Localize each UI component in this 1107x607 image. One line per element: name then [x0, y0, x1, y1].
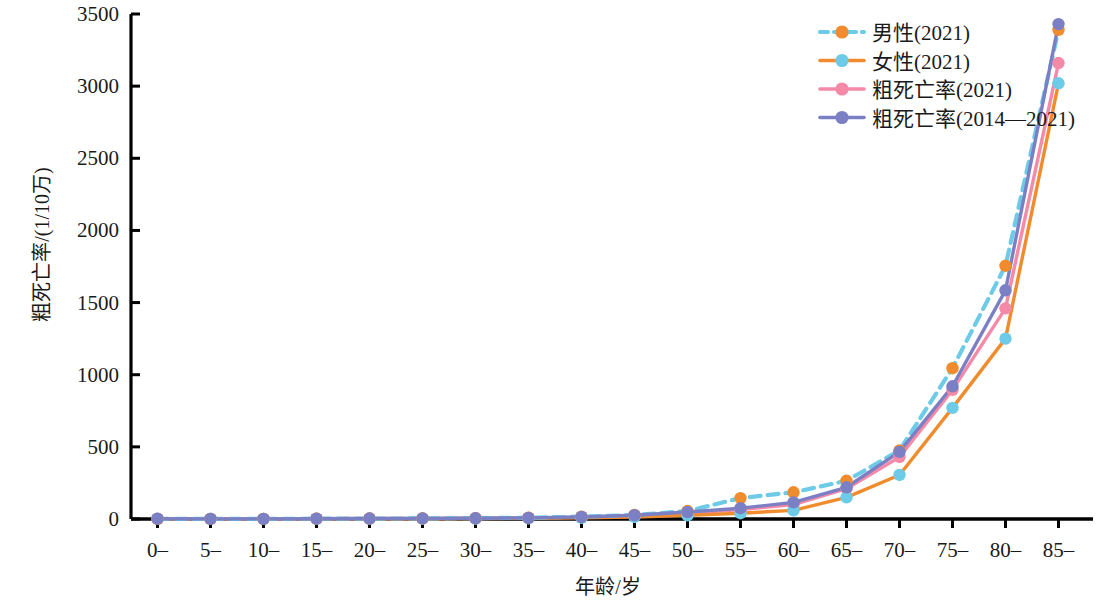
x-tick-label: 10– [248, 538, 280, 562]
x-tick-label: 5– [200, 538, 222, 562]
x-tick-label: 30– [460, 538, 492, 562]
data-point [681, 506, 693, 518]
y-tick-label: 1500 [77, 291, 119, 315]
x-tick-label: 80– [990, 538, 1022, 562]
data-point [1052, 57, 1064, 69]
data-point [204, 513, 216, 525]
chart-root: 粗死亡率/(1/10万) 050010001500200025003000350… [0, 0, 1107, 607]
x-tick-label: 55– [725, 538, 757, 562]
legend-marker-2 [835, 82, 848, 95]
legend-marker-1 [835, 54, 848, 67]
data-point [628, 509, 640, 521]
data-point [999, 302, 1011, 314]
x-tick-label: 35– [513, 538, 545, 562]
y-tick-label: 2500 [77, 146, 119, 170]
x-tick-label: 20– [354, 538, 386, 562]
legend-label-0: 男性(2021) [872, 21, 970, 45]
y-tick-label: 2000 [77, 218, 119, 242]
x-tick-label: 25– [407, 538, 439, 562]
x-tick-label: 45– [619, 538, 651, 562]
y-tick-label: 3000 [77, 74, 119, 98]
x-tick-label: 75– [937, 538, 969, 562]
data-point [469, 512, 481, 524]
data-point [1052, 18, 1064, 30]
line-chart: 05001000150020002500300035000–5–10–15–20… [0, 0, 1107, 607]
y-tick-label: 0 [109, 507, 120, 531]
data-point [787, 496, 799, 508]
x-tick-label: 40– [566, 538, 598, 562]
legend-label-1: 女性(2021) [872, 50, 970, 74]
x-tick-label: 0– [147, 538, 169, 562]
legend-marker-3 [835, 111, 848, 124]
data-point [999, 332, 1011, 344]
data-point [734, 502, 746, 514]
y-tick-label: 500 [88, 435, 120, 459]
data-point [1052, 77, 1064, 89]
legend-label-3: 粗死亡率(2014—2021) [872, 107, 1075, 131]
data-point [416, 512, 428, 524]
data-point [575, 511, 587, 523]
data-point [999, 284, 1011, 296]
x-tick-label: 70– [884, 538, 916, 562]
x-tick-label: 85– [1043, 538, 1075, 562]
data-point [257, 513, 269, 525]
data-point [946, 402, 958, 414]
series-line-2 [158, 63, 1059, 519]
data-point [151, 513, 163, 525]
legend: 男性(2021)女性(2021)粗死亡率(2021)粗死亡率(2014—2021… [820, 21, 1075, 131]
series-line-1 [158, 83, 1059, 519]
x-tick-label: 50– [672, 538, 704, 562]
y-tick-label: 1000 [77, 363, 119, 387]
data-point [522, 512, 534, 524]
x-axis-title: 年龄/岁 [575, 576, 641, 598]
data-point [310, 513, 322, 525]
y-tick-label: 3500 [77, 2, 119, 26]
data-point [893, 469, 905, 481]
legend-label-2: 粗死亡率(2021) [872, 78, 1012, 102]
x-tick-label: 65– [831, 538, 863, 562]
data-point [999, 260, 1011, 272]
legend-marker-0 [835, 25, 848, 38]
data-point [946, 362, 958, 374]
data-point [893, 446, 905, 458]
x-tick-label: 15– [301, 538, 333, 562]
data-point [946, 380, 958, 392]
data-point [363, 512, 375, 524]
x-tick-label: 60– [778, 538, 810, 562]
data-point [840, 481, 852, 493]
